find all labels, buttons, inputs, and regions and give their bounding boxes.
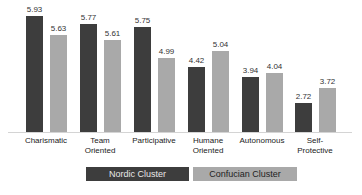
bar-confucian-participative <box>158 58 175 132</box>
value-label: 3.72 <box>313 77 343 86</box>
value-label: 4.42 <box>182 56 212 65</box>
value-label: 5.04 <box>206 40 236 49</box>
category-label: Self-Protective <box>285 136 345 156</box>
bar-confucian-autonomous <box>266 73 283 132</box>
bar-chart: 5.935.63Charismatic5.775.61TeamOriented5… <box>0 0 362 195</box>
category-label: Charismatic <box>16 136 76 146</box>
value-label: 4.04 <box>260 62 290 71</box>
category-label: TeamOriented <box>70 136 130 156</box>
category-label: Autonomous <box>232 136 292 146</box>
value-label: 5.61 <box>98 29 128 38</box>
value-label: 5.93 <box>20 5 50 14</box>
bar-nordic-self-protective <box>295 103 312 132</box>
bar-nordic-participative <box>134 27 151 132</box>
legend-nordic-cluster: Nordic Cluster <box>86 167 189 181</box>
value-label: 5.63 <box>44 24 74 33</box>
bar-nordic-autonomous <box>242 77 259 132</box>
category-label: HumaneOriented <box>178 136 238 156</box>
x-axis-line <box>8 132 352 133</box>
bar-nordic-charismatic <box>26 16 43 132</box>
bar-nordic-team-oriented <box>80 24 97 132</box>
bar-confucian-team-oriented <box>104 40 121 132</box>
value-label: 5.75 <box>128 16 158 25</box>
value-label: 5.77 <box>74 13 104 22</box>
bar-nordic-humane-oriented <box>188 67 205 132</box>
bar-confucian-humane-oriented <box>212 51 229 132</box>
value-label: 4.99 <box>152 47 182 56</box>
category-label: Participative <box>124 136 184 146</box>
bar-confucian-self-protective <box>319 88 336 132</box>
legend-confucian-cluster: Confucian Cluster <box>193 167 297 181</box>
value-label: 2.72 <box>289 92 319 101</box>
bar-confucian-charismatic <box>50 35 67 132</box>
